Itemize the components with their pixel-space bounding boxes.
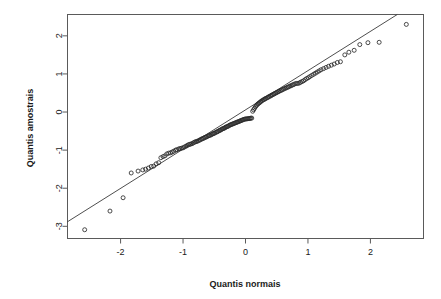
x-tick-label: 1 (305, 247, 310, 257)
x-tick-label: -2 (117, 247, 125, 257)
x-axis-title: Quantis normais (209, 279, 280, 289)
y-tick-label: -1 (54, 146, 64, 154)
y-tick-label: 2 (54, 33, 64, 38)
x-tick-label: -1 (179, 247, 187, 257)
y-tick-label: -2 (54, 184, 64, 192)
y-tick-label: -3 (54, 222, 64, 230)
y-tick-label: 0 (54, 110, 64, 115)
y-axis-title: Quantis amostrais (25, 89, 35, 168)
plot-background (0, 0, 441, 299)
x-tick-label: 0 (243, 247, 248, 257)
qq-plot-figure: -2-1012 210-1-2-3 Quantis normais Quanti… (0, 0, 441, 299)
y-tick-label: 1 (54, 71, 64, 76)
qq-plot-canvas: -2-1012 210-1-2-3 Quantis normais Quanti… (0, 0, 441, 299)
x-tick-label: 2 (368, 247, 373, 257)
